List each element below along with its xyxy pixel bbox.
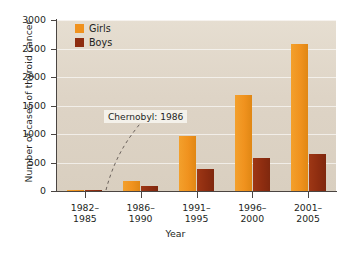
- legend-swatch-boys-icon: [75, 38, 84, 47]
- x-axis-tick: [197, 192, 198, 198]
- y-axis-tick: [51, 49, 56, 50]
- x-axis-tick-label-line: 1995: [167, 213, 227, 224]
- legend-swatch-girls-icon: [75, 24, 84, 33]
- x-axis-tick-label-line: 1990: [111, 213, 171, 224]
- bar-boys-4: [309, 154, 326, 191]
- bar-girls-3: [235, 95, 252, 191]
- annotation-chernobyl: Chernobyl: 1986: [104, 110, 187, 123]
- x-axis-tick-label-line: 1982–: [55, 202, 115, 213]
- x-axis-tick: [85, 192, 86, 198]
- x-axis-tick-label-line: 2001–: [278, 202, 338, 213]
- x-axis-tick: [308, 192, 309, 198]
- x-axis-tick-label: 1991–1995: [167, 202, 227, 225]
- x-axis-tick-label-line: 1991–: [167, 202, 227, 213]
- y-axis-tick: [51, 106, 56, 107]
- x-axis-tick-label-line: 1996–: [222, 202, 282, 213]
- bar-girls-2: [179, 136, 196, 191]
- y-axis-tick-label: 2500: [6, 43, 46, 54]
- legend-item-girls: Girls: [75, 21, 112, 35]
- y-axis-tick-label: 2000: [6, 71, 46, 82]
- chart-figure: Number of cases of thyroid cancer 050010…: [0, 0, 351, 254]
- legend-label-boys: Boys: [89, 37, 112, 48]
- y-axis-tick: [51, 163, 56, 164]
- x-axis-tick-label: 1996–2000: [222, 202, 282, 225]
- y-axis-tick: [51, 20, 56, 21]
- x-axis-tick-label: 1986–1990: [111, 202, 171, 225]
- y-axis-line: [56, 19, 57, 192]
- x-axis-tick-label-line: 2005: [278, 213, 338, 224]
- y-axis-tick: [51, 134, 56, 135]
- x-axis-tick-label-line: 1985: [55, 213, 115, 224]
- y-axis-tick-label: 500: [6, 157, 46, 168]
- y-axis-tick: [51, 191, 56, 192]
- legend-item-boys: Boys: [75, 35, 112, 49]
- y-axis-tick-label: 3000: [6, 14, 46, 25]
- x-axis-tick-label-line: 2000: [222, 213, 282, 224]
- y-axis-tick: [51, 77, 56, 78]
- y-axis-tick-label: 0: [6, 185, 46, 196]
- x-axis-tick-label: 2001–2005: [278, 202, 338, 225]
- bar-girls-4: [291, 44, 308, 191]
- legend-label-girls: Girls: [89, 23, 111, 34]
- chart-legend: Girls Boys: [75, 21, 112, 49]
- y-axis-tick-label: 1000: [6, 128, 46, 139]
- x-axis-tick-label: 1982–1985: [55, 202, 115, 225]
- bar-girls-1: [123, 181, 140, 191]
- x-axis-tick: [141, 192, 142, 198]
- y-axis-tick-label: 1500: [6, 100, 46, 111]
- x-axis-title: Year: [0, 228, 351, 239]
- x-axis-tick-label-line: 1986–: [111, 202, 171, 213]
- bar-boys-2: [197, 169, 214, 191]
- x-axis-tick: [252, 192, 253, 198]
- bar-boys-3: [253, 158, 270, 191]
